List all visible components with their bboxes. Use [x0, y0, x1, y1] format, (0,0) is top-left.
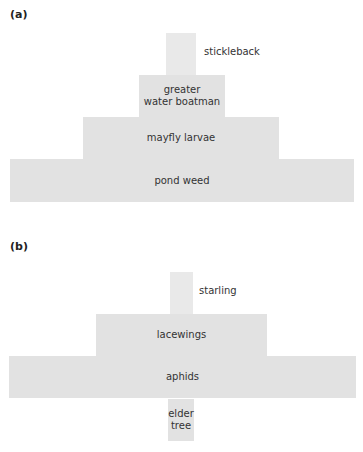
level-label-line1: elder	[168, 408, 194, 420]
pyramid-a-label-stickleback: stickleback	[204, 46, 260, 57]
pyramid-b-level-starling	[170, 272, 193, 314]
pyramid-a-level-stickleback	[166, 33, 196, 75]
pyramid-b-level-elder-tree: elder tree	[168, 399, 194, 441]
pyramid-b-level-aphids: aphids	[9, 356, 356, 398]
pyramid-a-level-greater-water-boatman: greater water boatman	[139, 75, 225, 117]
panel-b-label: (b)	[10, 240, 28, 253]
panel-a-label: (a)	[10, 8, 27, 21]
pyramid-b-label-starling: starling	[199, 285, 237, 296]
level-label-line2: water boatman	[144, 96, 220, 108]
level-label-line1: greater	[164, 84, 201, 96]
pyramid-a-level-mayfly-larvae: mayfly larvae	[83, 117, 279, 159]
level-label: lacewings	[157, 329, 206, 341]
pyramid-a-level-pond-weed: pond weed	[10, 159, 354, 202]
level-label: aphids	[166, 371, 199, 383]
level-label-line2: tree	[171, 420, 191, 432]
level-label: mayfly larvae	[147, 132, 215, 144]
pyramid-b-level-lacewings: lacewings	[96, 314, 267, 356]
level-label: pond weed	[154, 175, 209, 187]
